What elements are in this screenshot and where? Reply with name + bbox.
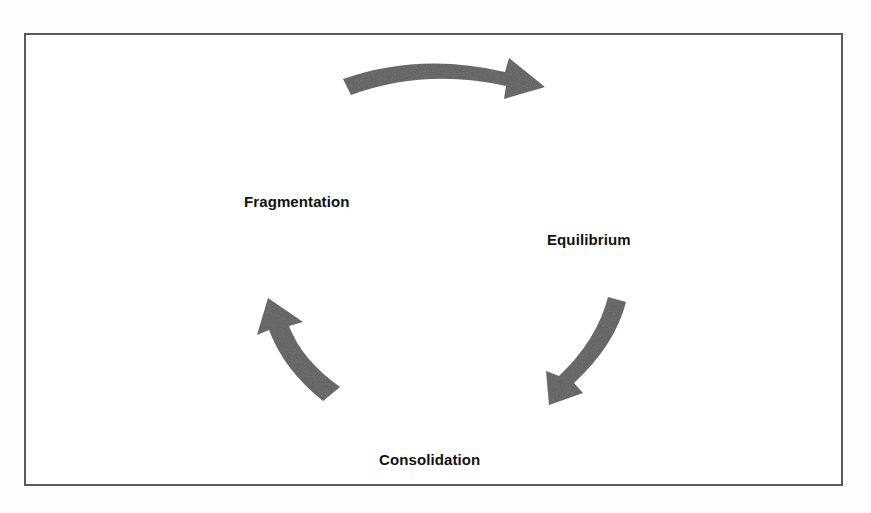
- cycle-arrows: [0, 0, 871, 513]
- curved-arrow-up-left-icon: [257, 298, 340, 401]
- stage-label-consolidation: Consolidation: [379, 451, 480, 468]
- curved-arrow-right-icon: [343, 58, 545, 99]
- curved-arrow-down-left-icon: [546, 297, 626, 405]
- stage-label-fragmentation: Fragmentation: [244, 193, 349, 210]
- stage-label-equilibrium: Equilibrium: [547, 231, 631, 248]
